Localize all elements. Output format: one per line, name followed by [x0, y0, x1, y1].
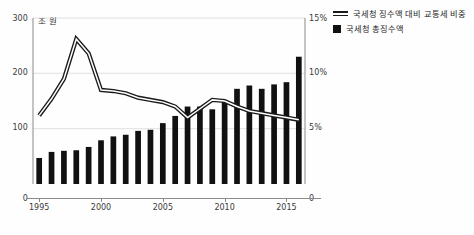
bar — [259, 89, 265, 184]
bar-series — [36, 57, 301, 184]
bar — [234, 89, 240, 184]
x-axis-tick-label: 2010 — [205, 203, 245, 212]
chart-canvas — [33, 18, 305, 184]
bar — [49, 152, 55, 184]
x-axis-tick-label: 2015 — [266, 203, 306, 212]
legend-item-ratio: 국세청 징수액 대비 교통세 비중 — [333, 9, 471, 19]
bar — [135, 131, 141, 184]
bar — [197, 107, 203, 184]
bar — [123, 135, 129, 184]
chart-figure: 조 원 300 200 100 0 15% 10% 5% 0 199520002… — [0, 0, 474, 235]
bar — [36, 158, 42, 184]
line-swatch-icon — [333, 9, 348, 18]
x-axis-tick-mark — [286, 198, 287, 202]
x-axis-tick-label: 1995 — [19, 203, 59, 212]
bar — [271, 84, 277, 184]
left-axis-tick-100: 100 — [2, 123, 28, 132]
bar — [148, 130, 154, 184]
chart-legend: 국세청 징수액 대비 교통세 비중 국세청 총징수액 — [333, 9, 471, 39]
x-axis-tick-mark — [39, 198, 40, 202]
x-axis-tick-mark — [101, 198, 102, 202]
bar — [284, 82, 290, 184]
left-axis-tick-0: 0 — [2, 194, 28, 203]
right-axis-tick-5: 5% — [309, 123, 339, 132]
bar — [247, 86, 253, 184]
bar — [98, 140, 104, 184]
bar — [172, 116, 178, 184]
legend-label-total: 국세청 총징수액 — [346, 24, 404, 34]
legend-item-total: 국세청 총징수액 — [333, 24, 471, 34]
bar — [111, 136, 117, 184]
bar-swatch-icon — [333, 25, 341, 33]
bar — [160, 123, 166, 184]
bar — [61, 151, 67, 184]
x-axis-baseline — [26, 198, 321, 199]
x-axis-tick-label: 2005 — [143, 203, 183, 212]
bar — [73, 150, 79, 184]
right-axis-tick-10: 10% — [309, 68, 339, 77]
x-axis-tick-mark — [225, 198, 226, 202]
legend-label-ratio: 국세청 징수액 대비 교통세 비중 — [353, 9, 466, 19]
plot-area — [33, 18, 305, 184]
bar — [86, 147, 92, 184]
x-axis-tick-mark — [163, 198, 164, 202]
bar — [222, 100, 228, 184]
bar — [209, 109, 215, 184]
left-axis-tick-300: 300 — [2, 14, 28, 23]
left-axis-tick-200: 200 — [2, 68, 28, 77]
x-axis-tick-label: 2000 — [81, 203, 121, 212]
